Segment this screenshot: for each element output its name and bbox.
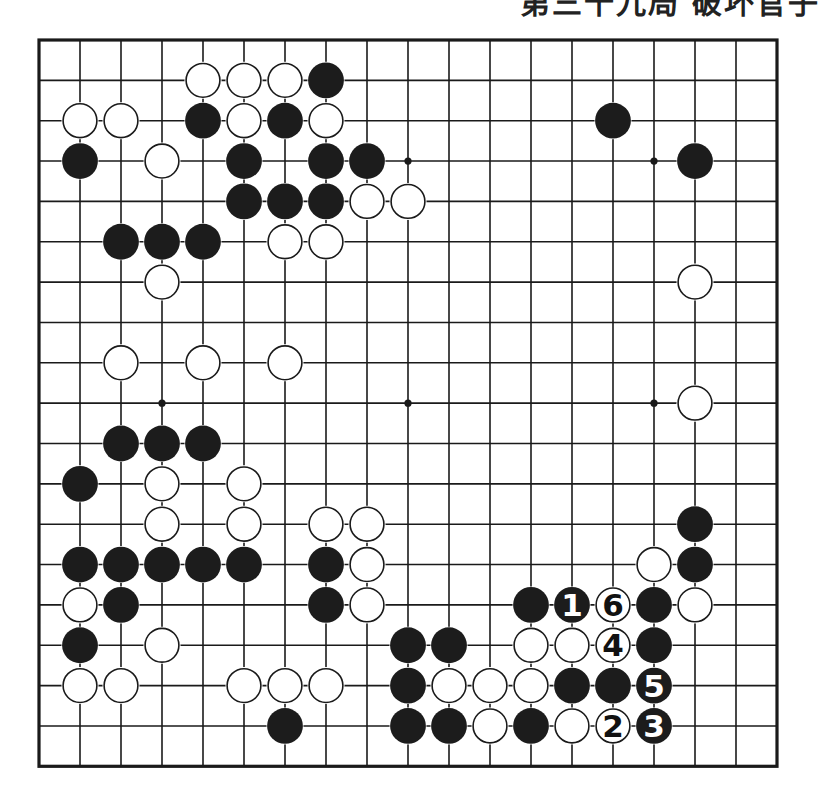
- move-number-label: 5: [643, 668, 665, 704]
- black-stone: [185, 546, 222, 583]
- white-stone: [62, 667, 99, 704]
- white-stone: [349, 546, 386, 583]
- move-number-label: 2: [602, 708, 624, 744]
- move-number-label: 4: [602, 627, 624, 663]
- black-stone: [144, 425, 181, 462]
- white-stone: [677, 385, 714, 422]
- black-stone: [308, 546, 345, 583]
- white-stone: [144, 506, 181, 543]
- black-stone: [431, 627, 468, 664]
- move-number-label: 3: [643, 708, 665, 744]
- white-stone: [554, 627, 591, 664]
- black-stone: [226, 546, 263, 583]
- move-number-label: 1: [561, 587, 583, 623]
- black-stone: [267, 183, 304, 220]
- black-stone: [677, 143, 714, 180]
- white-stone: [144, 143, 181, 180]
- white-stone: [677, 586, 714, 623]
- white-stone-move-2: 2: [595, 707, 632, 744]
- black-stone: [390, 627, 427, 664]
- white-stone: [554, 707, 591, 744]
- white-stone: [308, 506, 345, 543]
- white-stone: [226, 62, 263, 99]
- black-stone: [62, 546, 99, 583]
- black-stone: [226, 183, 263, 220]
- white-stone: [349, 183, 386, 220]
- white-stone: [103, 667, 140, 704]
- white-stone: [103, 344, 140, 381]
- white-stone: [267, 62, 304, 99]
- white-stone: [349, 586, 386, 623]
- black-stone: [103, 586, 140, 623]
- white-stone: [472, 667, 509, 704]
- star-point: [404, 400, 411, 407]
- black-stone: [308, 183, 345, 220]
- black-stone: [390, 707, 427, 744]
- star-point: [650, 157, 657, 164]
- black-stone: [677, 546, 714, 583]
- white-stone: [308, 223, 345, 260]
- white-stone: [267, 223, 304, 260]
- white-stone: [308, 102, 345, 139]
- white-stone: [431, 667, 468, 704]
- black-stone: [62, 627, 99, 664]
- black-stone: [513, 707, 550, 744]
- white-stone: [62, 586, 99, 623]
- black-stone: [103, 223, 140, 260]
- black-stone: [185, 223, 222, 260]
- white-stone: [103, 102, 140, 139]
- white-stone: [62, 102, 99, 139]
- black-stone: [308, 143, 345, 180]
- white-stone: [513, 627, 550, 664]
- white-stone: [226, 102, 263, 139]
- white-stone: [144, 264, 181, 301]
- star-point: [404, 157, 411, 164]
- white-stone: [267, 344, 304, 381]
- white-stone: [349, 506, 386, 543]
- white-stone: [267, 667, 304, 704]
- white-stone: [185, 344, 222, 381]
- black-stone: [226, 143, 263, 180]
- black-stone: [513, 586, 550, 623]
- black-stone: [103, 546, 140, 583]
- white-stone: [513, 667, 550, 704]
- black-stone-move-5: 5: [636, 667, 673, 704]
- white-stone: [185, 62, 222, 99]
- black-stone-move-3: 3: [636, 707, 673, 744]
- black-stone: [308, 62, 345, 99]
- white-stone: [226, 506, 263, 543]
- black-stone: [308, 586, 345, 623]
- black-stone: [62, 465, 99, 502]
- white-stone: [677, 264, 714, 301]
- black-stone: [103, 425, 140, 462]
- black-stone: [62, 143, 99, 180]
- white-stone: [144, 627, 181, 664]
- black-stone: [144, 223, 181, 260]
- white-stone-move-6: 6: [595, 586, 632, 623]
- black-stone: [677, 506, 714, 543]
- black-stone-move-1: 1: [554, 586, 591, 623]
- black-stone: [636, 586, 673, 623]
- black-stone: [431, 707, 468, 744]
- move-number-label: 6: [602, 587, 624, 623]
- black-stone: [267, 707, 304, 744]
- black-stone: [595, 102, 632, 139]
- black-stone: [595, 667, 632, 704]
- white-stone: [636, 546, 673, 583]
- star-point: [158, 400, 165, 407]
- black-stone: [349, 143, 386, 180]
- white-stone: [390, 183, 427, 220]
- white-stone-move-4: 4: [595, 627, 632, 664]
- white-stone: [144, 465, 181, 502]
- black-stone: [636, 627, 673, 664]
- black-stone: [267, 102, 304, 139]
- black-stone: [185, 102, 222, 139]
- star-point: [650, 400, 657, 407]
- white-stone: [308, 667, 345, 704]
- black-stone: [554, 667, 591, 704]
- black-stone: [144, 546, 181, 583]
- white-stone: [226, 667, 263, 704]
- white-stone: [226, 465, 263, 502]
- black-stone: [185, 425, 222, 462]
